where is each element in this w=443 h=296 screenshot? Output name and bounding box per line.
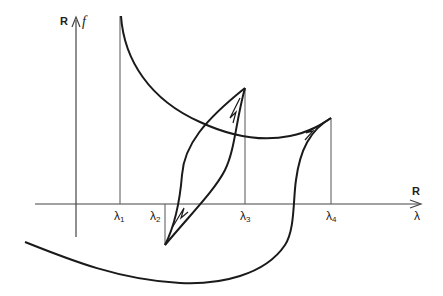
x-axis-var-label: λ (414, 210, 420, 222)
y-axis-var-label: f (82, 15, 86, 29)
tick-lambda3: λ3 (240, 210, 250, 224)
diagram-canvas (0, 0, 443, 296)
y-axis-set-label: R (60, 16, 68, 27)
upper-curve (121, 16, 331, 138)
tick-lambda4: λ4 (326, 210, 336, 224)
tick-lambda1: λ1 (114, 210, 124, 224)
x-axis-set-label: R (412, 186, 420, 197)
tick-lambda2: λ2 (150, 210, 160, 224)
